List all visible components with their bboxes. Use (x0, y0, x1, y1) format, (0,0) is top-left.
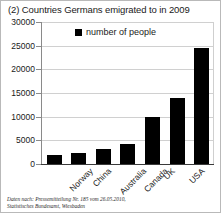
y-tick-label: 20000 (11, 64, 35, 74)
y-tick-label: 10000 (11, 112, 35, 122)
y-tick-label: 25000 (11, 41, 35, 51)
bar (145, 117, 160, 164)
bar-slot (67, 22, 92, 164)
bar-slot (42, 22, 67, 164)
x-tick-label: China (90, 166, 113, 189)
bar-slot (140, 22, 165, 164)
bar (170, 98, 185, 164)
x-tick-label: USA (187, 166, 206, 185)
y-tick-label: 30000 (11, 17, 35, 27)
chart-figure: (2) Countries Germans emigrated to in 20… (0, 0, 221, 213)
bar-slot (116, 22, 141, 164)
source-footnote: Daten nach: Pressemitteilung Nr. 185 vom… (7, 196, 126, 210)
bar (47, 155, 62, 164)
bar-slot (189, 22, 214, 164)
y-tick-label: 15000 (11, 88, 35, 98)
bar (96, 149, 111, 164)
x-axis-line (41, 164, 214, 165)
chart-title: (2) Countries Germans emigrated to in 20… (8, 4, 190, 15)
x-tick-label: Switzerland (220, 166, 221, 204)
footnote-line-2: Statistisches Bundesamt, Wiesbaden (7, 203, 126, 210)
x-tick-label: Australia (118, 166, 148, 196)
bar-slot (91, 22, 116, 164)
bar (120, 144, 135, 164)
bar-series (42, 22, 214, 164)
bar (194, 48, 209, 164)
y-tick-label: 0 (30, 159, 35, 169)
bar (71, 153, 86, 164)
footnote-line-1: Daten nach: Pressemitteilung Nr. 185 vom… (7, 196, 126, 203)
bar-slot (165, 22, 190, 164)
y-tick-label: 5000 (16, 135, 35, 145)
